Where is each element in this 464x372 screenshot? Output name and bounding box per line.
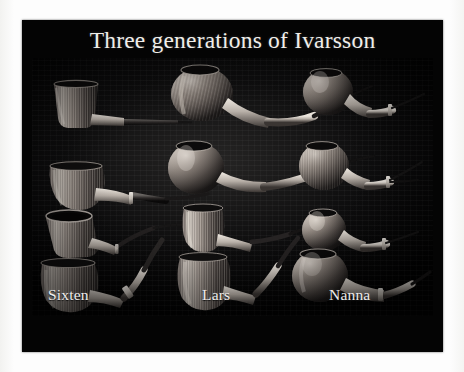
presentation-board: Three generations of Ivarsson bbox=[22, 20, 443, 352]
pipe-nanna-2 bbox=[299, 142, 422, 190]
pipe-nanna-1 bbox=[303, 69, 424, 118]
pipe-collection-photo: Sixten Lars Nanna bbox=[32, 58, 433, 316]
pipe-sixten-1 bbox=[54, 80, 192, 128]
page-title: Three generations of Ivarsson bbox=[22, 27, 443, 54]
maker-label-sixten: Sixten bbox=[48, 286, 89, 304]
pipe-nanna-3 bbox=[302, 209, 418, 252]
pipe-illustration-layer bbox=[32, 58, 433, 316]
slide-frame: Three generations of Ivarsson bbox=[0, 0, 464, 372]
maker-label-lars: Lars bbox=[202, 286, 230, 304]
pipe-sixten-3 bbox=[46, 210, 190, 258]
maker-label-nanna: Nanna bbox=[329, 286, 370, 304]
